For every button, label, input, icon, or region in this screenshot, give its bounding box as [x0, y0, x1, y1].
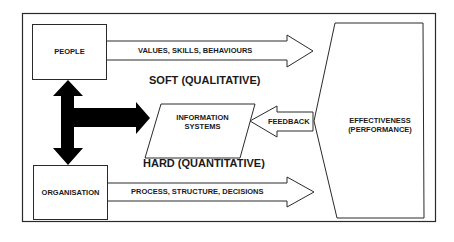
effectiveness-line2: (PERFORMANCE) [335, 125, 425, 134]
hard-heading: HARD (QUANTITATIVE) [143, 157, 265, 169]
effectiveness-label: EFFECTIVENESS (PERFORMANCE) [335, 116, 425, 134]
information-systems-line1: INFORMATION [160, 113, 245, 122]
feedback-label: FEEDBACK [268, 117, 310, 126]
soft-heading: SOFT (QUALITATIVE) [149, 74, 260, 86]
information-systems-label: INFORMATION SYSTEMS [160, 113, 245, 131]
organisation-label: ORGANISATION [33, 188, 108, 197]
process-arrow-label: PROCESS, STRUCTURE, DECISIONS [131, 187, 264, 196]
people-label: PEOPLE [32, 47, 107, 56]
solid-double-arrow [53, 80, 150, 165]
values-arrow-label: VALUES, SKILLS, BEHAVIOURS [138, 46, 252, 55]
information-systems-line2: SYSTEMS [160, 122, 245, 131]
effectiveness-line1: EFFECTIVENESS [335, 116, 425, 125]
